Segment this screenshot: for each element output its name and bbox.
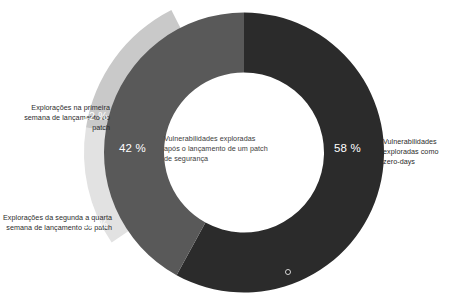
callout-zero-days: Vulnerabilidades exploradas como zero-da…	[383, 137, 449, 168]
value-label-after-patch: 42 %	[119, 142, 146, 154]
value-label-first-week: 12 %	[83, 110, 108, 122]
value-label-zero-days: 58 %	[334, 142, 361, 154]
watermark-dot-icon	[285, 269, 291, 275]
callout-after-patch: Vulnerabilidades exploradas após o lança…	[164, 134, 270, 165]
donut-chart: Explorações na primeira semana de lançam…	[0, 0, 450, 306]
value-label-second-to-fourth-week: 15 %	[83, 218, 108, 230]
